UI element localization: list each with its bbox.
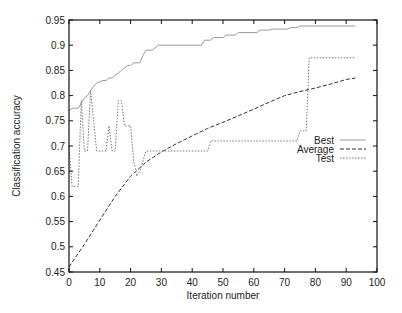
series-line-best	[69, 26, 355, 111]
legend: BestAverageTest	[297, 135, 366, 164]
x-tick-label: 0	[66, 277, 72, 288]
y-tick-label: 0.55	[46, 216, 66, 227]
line-chart: 0102030405060708090100 0.450.50.550.60.6…	[0, 0, 402, 313]
y-tick-label: 0.8	[51, 90, 65, 101]
y-tick-label: 0.85	[46, 65, 66, 76]
x-tick-label: 20	[125, 277, 137, 288]
y-tick-label: 0.45	[46, 267, 66, 278]
y-axis-label: Classification accuracy	[11, 95, 22, 197]
y-tick-label: 0.6	[51, 191, 65, 202]
x-tick-label: 40	[187, 277, 199, 288]
x-tick-label: 100	[369, 277, 386, 288]
y-tick-label: 0.9	[51, 40, 65, 51]
x-tick-label: 10	[94, 277, 106, 288]
x-tick-label: 80	[310, 277, 322, 288]
y-tick-label: 0.7	[51, 141, 65, 152]
x-tick-label: 30	[156, 277, 168, 288]
x-tick-label: 60	[248, 277, 260, 288]
series-line-average	[69, 78, 355, 267]
x-tick-label: 70	[279, 277, 291, 288]
y-tick-label: 0.75	[46, 115, 66, 126]
legend-label: Test	[316, 153, 335, 164]
x-axis-label: Iteration number	[187, 290, 260, 301]
series-line-test	[69, 58, 355, 187]
y-tick-label: 0.65	[46, 166, 66, 177]
y-tick-label: 0.95	[46, 15, 66, 26]
x-tick-label: 50	[217, 277, 229, 288]
x-axis-ticks: 0102030405060708090100	[66, 20, 386, 288]
x-tick-label: 90	[341, 277, 353, 288]
y-tick-label: 0.5	[51, 241, 65, 252]
chart-container: 0102030405060708090100 0.450.50.550.60.6…	[0, 0, 402, 313]
